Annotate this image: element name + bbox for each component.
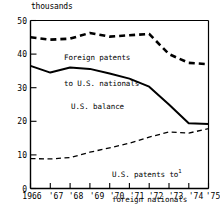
- annotation-us-balance: U.S. balance: [71, 86, 124, 129]
- annotation-us-patents-foreign-line1: U.S. patents to1: [112, 167, 187, 179]
- annotation-footnote-marker: 1: [178, 168, 181, 174]
- x-tick-label-1974: '74: [189, 192, 204, 201]
- y-tick-label-20: 20: [17, 117, 27, 126]
- patent-balance-line-chart: thousands 50 40 30 20 10 0: [0, 0, 220, 209]
- annotation-foreign-patents-line1: Foreign patents: [64, 54, 139, 63]
- y-tick-label-30: 30: [17, 84, 27, 93]
- x-tick-label-1969: '69: [90, 192, 105, 201]
- y-axis-tick-labels: 50 40 30 20 10 0: [17, 17, 27, 194]
- annotation-us-patents-foreign: U.S. patents to1 foreign nationals: [112, 150, 187, 209]
- y-tick-label-40: 40: [17, 50, 27, 59]
- annotation-us-patents-foreign-text1: U.S. patents to: [112, 170, 178, 179]
- x-tick-label-1967: '67: [49, 192, 64, 201]
- x-tick-label-1975: '75: [206, 192, 220, 201]
- y-tick-label-50: 50: [17, 17, 27, 26]
- annotation-us-patents-foreign-line2: foreign nationals: [112, 196, 187, 205]
- x-tick-label-1968: '68: [69, 192, 84, 201]
- y-axis-ticks: [31, 21, 37, 189]
- annotation-us-balance-line1: U.S. balance: [71, 103, 124, 112]
- y-tick-label-10: 10: [17, 151, 27, 160]
- x-tick-label-1966: 1966: [22, 192, 41, 201]
